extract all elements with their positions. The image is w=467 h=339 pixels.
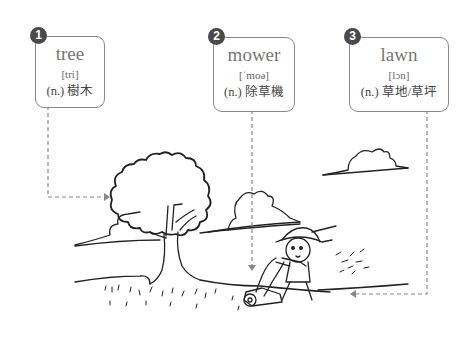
tree-trunk (150, 234, 165, 284)
connector-lawn (356, 110, 427, 294)
vocab-pronunciation: [ˈmoə] (214, 68, 294, 82)
vocab-definition: (n.) 樹木 (36, 83, 104, 99)
cloud-left (75, 212, 140, 245)
vocab-pronunciation: [lɔn] (350, 68, 448, 82)
vocab-word: mower (214, 44, 294, 66)
vocab-word: lawn (350, 44, 448, 66)
number-badge-1: 1 (30, 27, 47, 44)
arrowhead-tree-icon (104, 193, 110, 201)
tree-canopy (111, 152, 211, 235)
number-badge-3: 3 (344, 28, 361, 45)
vocab-card-mower: mower [ˈmoə] (n.) 除草機 (213, 37, 295, 112)
vocab-pronunciation: [tri] (36, 67, 104, 81)
vocab-card-tree: tree [tri] (n.) 樹木 (35, 36, 105, 108)
number-badge-2: 2 (208, 28, 225, 45)
lawn-ground (75, 276, 150, 284)
vocab-word: tree (36, 43, 104, 65)
vocab-definition: (n.) 除草機 (214, 84, 294, 100)
vocabulary-illustration: tree [tri] (n.) 樹木 1 mower [ˈmoə] (n.) 除… (0, 0, 467, 339)
arrowhead-mower-icon (248, 265, 256, 271)
vocab-definition: (n.) 草地/草坪 (350, 84, 448, 100)
vocab-card-lawn: lawn [lɔn] (n.) 草地/草坪 (349, 37, 449, 112)
connector-tree (48, 106, 104, 197)
arrowhead-lawn-icon (350, 290, 356, 298)
